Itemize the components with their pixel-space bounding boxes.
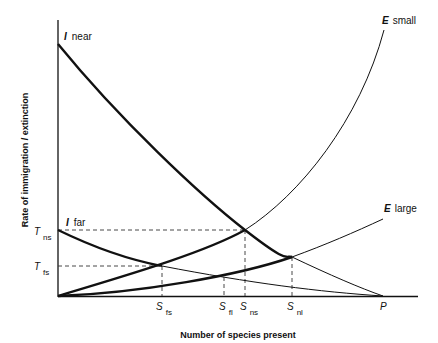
tick-s-fs: Sfs [156,301,172,317]
label-e-large: Elarge [384,203,417,214]
tick-s-ns: Sns [240,301,258,317]
curve-i-far [58,230,162,266]
curve-e-small-tail [245,30,384,230]
tick-t-fs: Tfs [34,261,49,277]
tick-t-ns: Tns [34,226,52,242]
curve-e-large-tail [292,219,383,257]
label-e-small: Esmall [382,15,416,26]
curve-e-large [58,257,292,296]
island-biogeography-diagram: Inear Ifar Esmall Elarge Tns Tfs Sfs Sfl… [0,0,438,343]
label-i-near: Inear [64,31,92,42]
label-i-far: Ifar [66,217,86,228]
tick-p: P [380,301,387,312]
tick-s-fl: Sfl [219,301,233,317]
y-axis-label: Rate of immigration / extinction [20,93,30,228]
curve-i-near-tail [292,257,383,296]
x-axis-label: Number of species present [180,330,296,340]
tick-s-nl: Snl [287,301,303,317]
curve-i-near [58,44,292,257]
